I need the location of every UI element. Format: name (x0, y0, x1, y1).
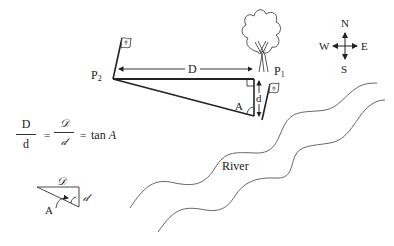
fraction-bar (16, 134, 36, 135)
formula-equals-1: = (44, 129, 50, 141)
compass-south: S (341, 64, 347, 75)
label-p2: P2 (91, 69, 102, 83)
right-angle-marker (247, 79, 254, 86)
formula-fraction-1: D d (16, 117, 36, 152)
label-distance-d: d (256, 93, 262, 104)
label-p2-text: P (91, 68, 98, 82)
flag-icon-p1 (262, 83, 279, 120)
compass-north: N (341, 18, 349, 29)
formula-tan: tan (91, 128, 106, 142)
small-triangle-label-D: 𝒟 (57, 176, 66, 187)
formula-angle-var: A (109, 128, 116, 142)
compass-icon (333, 33, 357, 59)
flag-icon-p2 (113, 38, 131, 79)
river-banks (130, 83, 385, 232)
small-triangle-label-d: 𝒹 (83, 192, 89, 203)
formula-equals-2: = (80, 129, 86, 141)
formula-numerator-1: D (22, 117, 31, 132)
compass-east: E (361, 41, 368, 52)
small-triangle (37, 187, 79, 208)
formula-denominator-2: 𝒹 (61, 135, 67, 148)
label-distance-D: D (188, 63, 197, 75)
label-p1-text: P (274, 64, 281, 78)
small-triangle-label-A: A (45, 205, 53, 216)
fraction-bar (54, 132, 74, 133)
formula-numerator-2: 𝒟 (60, 117, 69, 130)
label-p1-subscript: 1 (281, 70, 285, 79)
label-p1: P1 (274, 65, 285, 79)
label-angle-A: A (235, 101, 243, 112)
main-triangle (113, 79, 254, 116)
label-river: River (222, 160, 249, 172)
formula-rhs: tan A (91, 128, 116, 143)
tree-icon (242, 10, 280, 72)
formula-denominator-1: d (23, 137, 29, 152)
label-p2-subscript: 2 (98, 74, 102, 83)
compass-west: W (319, 41, 329, 52)
formula-fraction-2: 𝒟 𝒹 (54, 117, 74, 148)
small-angle-arc (71, 197, 76, 203)
